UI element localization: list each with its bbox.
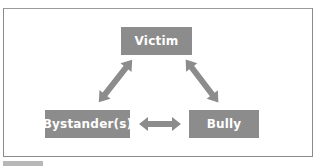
node-bystander: Bystander(s) [45,110,130,138]
node-victim-label: Victim [135,34,179,48]
node-bully: Bully [189,110,259,138]
node-bystander-label: Bystander(s) [43,117,133,131]
node-bully-label: Bully [207,117,242,131]
footer-mark [3,161,43,166]
node-victim: Victim [121,27,192,55]
